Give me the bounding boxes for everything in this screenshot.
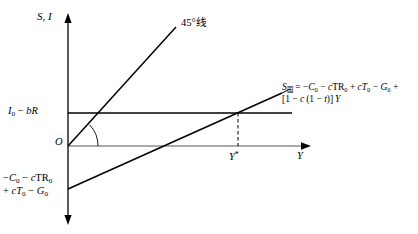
equilibrium-output-label: Y* <box>229 150 239 163</box>
angle-arc <box>90 125 99 146</box>
saving-function-equation: S国 = −C0 − cTR0 + cT0 − G0 + [1 − c (1 −… <box>282 82 398 106</box>
investment-intercept-label: I0 − bR <box>8 105 38 118</box>
y-axis-label: S, I <box>37 10 52 23</box>
saving-line <box>68 93 282 189</box>
x-axis-label: Y <box>297 150 303 162</box>
saving-intercept-label: −C0 − cTR0 + cT0 − G0 <box>3 172 52 198</box>
y-axis-arrow-down <box>64 215 71 225</box>
origin-label: O <box>55 136 63 148</box>
economics-diagram <box>0 0 418 234</box>
forty-five-degree-line <box>68 27 176 146</box>
x-axis-arrow-right <box>301 142 311 150</box>
y-axis-arrow-up <box>64 13 71 23</box>
forty-five-degree-line-label: 45°线 <box>181 16 206 29</box>
